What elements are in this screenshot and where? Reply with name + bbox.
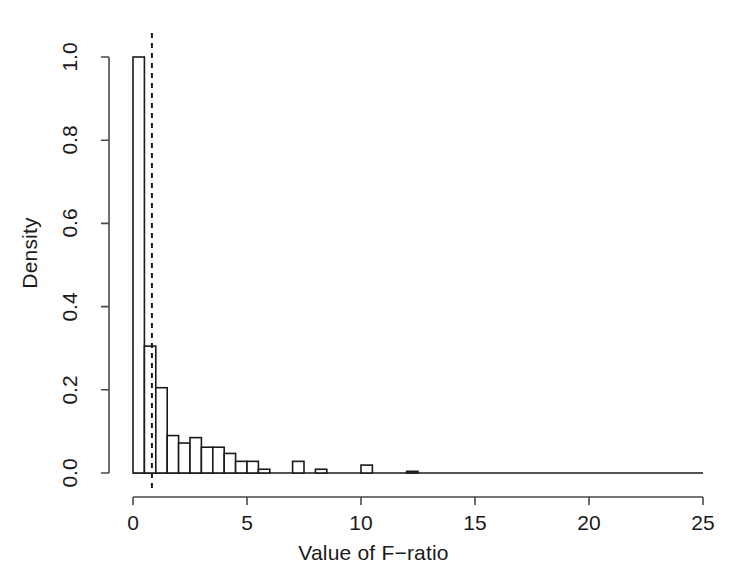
y-axis-title-wrap: Density <box>0 0 60 505</box>
y-tick-label: 1.0 <box>58 32 82 82</box>
y-axis-line <box>101 57 109 473</box>
histogram-bar <box>133 57 144 473</box>
histogram-bar <box>167 436 178 473</box>
histogram-bar <box>144 346 155 473</box>
histogram-bar <box>224 453 235 473</box>
histogram-figure: Density Value of F−ratio 0510152025 0.00… <box>0 0 747 587</box>
y-axis-title: Density <box>18 217 42 288</box>
x-tick-label: 15 <box>463 511 486 535</box>
x-tick-label: 25 <box>691 511 714 535</box>
histogram-bar <box>236 461 247 473</box>
histogram-bar <box>361 465 372 473</box>
plot-canvas <box>0 0 747 587</box>
y-tick-label: 0.6 <box>58 198 82 248</box>
x-axis-title: Value of F−ratio <box>0 541 747 565</box>
y-tick-label: 0.0 <box>58 448 82 498</box>
histogram-bar <box>258 469 269 473</box>
x-tick-label: 10 <box>349 511 372 535</box>
histogram-bar <box>190 438 201 473</box>
x-tick-label: 5 <box>241 511 253 535</box>
histogram-bar <box>213 447 224 473</box>
x-tick-label: 0 <box>127 511 139 535</box>
histogram-bar <box>293 461 304 473</box>
histogram-bar <box>156 388 167 473</box>
histogram-bar <box>247 461 258 473</box>
y-tick-label: 0.4 <box>58 282 82 332</box>
histogram-bar <box>179 443 190 473</box>
y-tick-label: 0.8 <box>58 115 82 165</box>
x-tick-label: 20 <box>577 511 600 535</box>
histogram-bar <box>315 469 326 473</box>
histogram-bar <box>201 447 212 473</box>
y-tick-label: 0.2 <box>58 365 82 415</box>
x-axis-line <box>133 497 703 505</box>
histogram-bar <box>407 471 418 473</box>
histogram-bars <box>133 57 703 473</box>
